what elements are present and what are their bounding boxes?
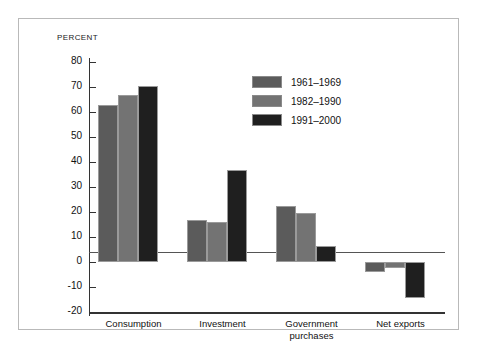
x-axis-line [89,312,445,314]
legend-item: 1982–1990 [252,93,382,109]
bar [296,213,316,262]
legend-item: 1961–1969 [252,74,382,90]
legend-label: 1961–1969 [291,77,341,88]
bar [227,170,247,263]
y-axis-tick [89,162,96,163]
bar [98,105,118,263]
y-axis-tick-label: -20 [48,305,82,316]
bar [207,222,227,262]
y-axis-tick-label: 30 [48,180,82,191]
bar [138,86,158,262]
bar [385,262,405,268]
y-axis-tick [89,112,96,113]
y-axis-tick-label: 40 [48,155,82,166]
y-axis-tick [89,312,96,313]
bar [405,262,425,298]
legend-item: 1991–2000 [252,112,382,128]
chart-legend: 1961–19691982–19901991–2000 [252,74,382,131]
y-axis-tick [89,287,96,288]
y-axis-tick-label: 50 [48,130,82,141]
legend-label: 1982–1990 [291,96,341,107]
bar-chart-plot-area: PERCENT 80706050403020100-10-20 Consumpt… [0,0,477,350]
y-axis-tick-label: 20 [48,205,82,216]
y-axis-tick [89,212,96,213]
y-axis-tick-label: 80 [48,55,82,66]
y-axis-tick [89,237,96,238]
y-axis-tick-label: -10 [48,280,82,291]
y-axis-tick [89,262,96,263]
legend-color-swatch [252,114,282,126]
legend-label: 1991–2000 [291,115,341,126]
y-axis-tick [89,62,96,63]
bar [187,220,207,263]
bar [365,262,385,272]
bar [276,206,296,262]
y-axis-tick [89,87,96,88]
legend-color-swatch [252,95,282,107]
y-axis-tick-label: 10 [48,230,82,241]
y-axis-tick-label: 0 [48,255,82,266]
y-axis-tick-label: 70 [48,80,82,91]
bar [118,95,138,263]
y-axis-tick [89,137,96,138]
chart-figure: PERCENT 80706050403020100-10-20 Consumpt… [0,0,477,350]
legend-color-swatch [252,76,282,88]
y-axis-title: PERCENT [57,33,98,42]
y-axis-tick [89,187,96,188]
y-axis-tick-label: 60 [48,105,82,116]
bar [316,246,336,262]
x-axis-category-label: Net exports [346,318,455,330]
